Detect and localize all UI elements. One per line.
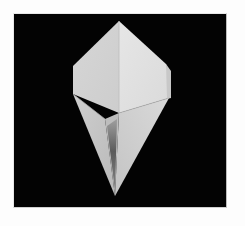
lower-right-flap — [115, 98, 169, 196]
upper-right-face — [119, 21, 169, 113]
image-frame — [0, 0, 245, 226]
origami-figure — [13, 13, 227, 208]
origami-photo — [13, 13, 227, 208]
